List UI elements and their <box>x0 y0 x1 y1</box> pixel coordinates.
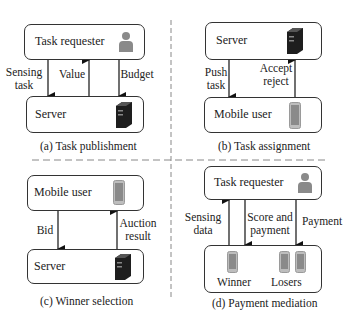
task-requester-box: Task requester <box>24 24 145 60</box>
box-label: Server <box>35 107 66 122</box>
label-bid: Bid <box>34 224 56 237</box>
winner-phone-icon <box>227 251 238 273</box>
person-icon <box>297 172 313 194</box>
box-label: Task requester <box>214 175 283 190</box>
winner-label: Winner <box>217 276 251 288</box>
server-box: Server <box>26 96 144 133</box>
box-label: Task requester <box>35 34 104 49</box>
server-box: Server <box>27 249 144 284</box>
server-icon <box>112 253 132 281</box>
box-label: Server <box>216 33 247 48</box>
label-payment: Payment <box>297 215 347 228</box>
loser-phone-icon <box>279 251 290 273</box>
box-label: Mobile user <box>34 185 92 200</box>
label-push-task: Push task <box>203 66 229 92</box>
label-sensing-data: Sensing data <box>180 211 226 237</box>
participants-box: Winner Losers <box>204 245 322 293</box>
label-value: Value <box>56 68 88 81</box>
mobile-user-box: Mobile user <box>27 175 144 211</box>
loser-phone-icon <box>295 251 306 273</box>
box-label: Mobile user <box>214 107 272 122</box>
caption-d: (d) Payment mediation <box>212 297 317 309</box>
label-sensing-task: Sensing task <box>2 66 46 92</box>
phone-icon <box>113 180 125 205</box>
server-icon <box>284 27 304 55</box>
mobile-user-box: Mobile user <box>204 97 322 133</box>
caption-b: (b) Task assignment <box>218 140 310 152</box>
box-label: Server <box>34 259 65 274</box>
label-score-and-payment: Score and payment <box>246 211 294 237</box>
label-budget: Budget <box>118 68 156 81</box>
caption-a: (a) Task publishment <box>40 140 137 152</box>
task-requester-box: Task requester <box>204 166 322 200</box>
label-accept-reject: Accept reject <box>257 62 295 88</box>
server-icon <box>113 101 133 129</box>
losers-label: Losers <box>271 276 302 288</box>
person-icon <box>118 31 134 53</box>
server-box: Server <box>205 22 322 60</box>
caption-c: (c) Winner selection <box>40 295 133 307</box>
label-auction-result: Auction result <box>117 217 159 243</box>
phone-icon <box>289 102 301 129</box>
